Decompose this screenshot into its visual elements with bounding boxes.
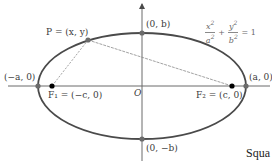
bottom-vertex-label: (0, −b) bbox=[146, 144, 178, 153]
origin-label: O bbox=[134, 89, 141, 98]
point-p-dot bbox=[85, 37, 90, 42]
equation-term-y: y2 b2 bbox=[228, 20, 238, 44]
focus1-label: F₁ = (−c, 0) bbox=[48, 91, 102, 100]
vertex-bottom-dot bbox=[139, 136, 144, 141]
focus2-label: F₂ = (c, 0) bbox=[196, 91, 243, 100]
focus1-dot bbox=[49, 83, 54, 88]
point-p-label: P = (x, y) bbox=[46, 28, 88, 37]
left-vertex-label: (−a, 0) bbox=[4, 73, 35, 82]
top-vertex-label: (0, b) bbox=[146, 20, 170, 29]
vertex-top-dot bbox=[139, 30, 144, 35]
vertex-left-dot bbox=[35, 83, 40, 88]
right-vertex-label: (a, 0) bbox=[249, 73, 272, 82]
equation-term-x: x2 a2 bbox=[205, 20, 215, 44]
vertex-right-dot bbox=[243, 83, 248, 88]
ellipse-equation: x2 a2 + y2 b2 = 1 bbox=[205, 20, 256, 44]
caption-fragment: Squa bbox=[246, 146, 270, 161]
ellipse-diagram: P = (x, y) (0, b) (0, −b) (−a, 0) (a, 0)… bbox=[0, 0, 272, 161]
focus2-dot bbox=[229, 83, 234, 88]
equation-equals: = 1 bbox=[241, 28, 255, 37]
equation-plus: + bbox=[218, 28, 225, 37]
